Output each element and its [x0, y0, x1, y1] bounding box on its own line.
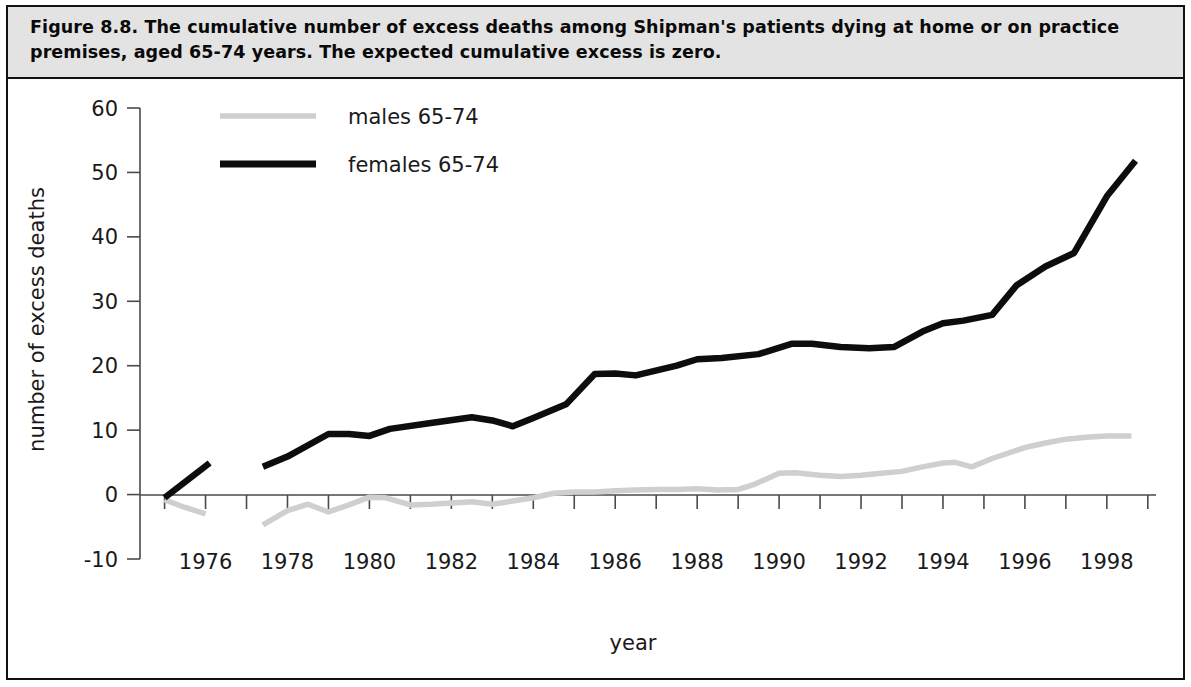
y-tick-label: -10 — [84, 548, 118, 572]
figure-container: Figure 8.8. The cumulative number of exc… — [0, 0, 1191, 687]
x-axis-title: year — [610, 631, 657, 655]
axis-titles: number of excess deathsyear — [25, 187, 657, 655]
legend-label-females: females 65-74 — [348, 153, 499, 177]
line-chart: -100102030405060 19761978198019821984198… — [8, 80, 1183, 678]
x-tick-label: 1986 — [588, 550, 641, 574]
x-tick-label: 1994 — [916, 550, 969, 574]
plot-area: -100102030405060 19761978198019821984198… — [8, 80, 1183, 678]
y-tick-label: 60 — [91, 97, 118, 121]
x-tick-label: 1992 — [834, 550, 887, 574]
figure-caption-text: Figure 8.8. The cumulative number of exc… — [30, 15, 1167, 66]
series-line-females — [165, 463, 210, 498]
x-tick-label: 1996 — [998, 550, 1051, 574]
x-tick-label: 1984 — [507, 550, 560, 574]
y-tick-label: 40 — [91, 225, 118, 249]
figure-caption-box: Figure 8.8. The cumulative number of exc… — [8, 7, 1183, 79]
y-tick-label: 0 — [105, 483, 118, 507]
x-tick-label: 1980 — [343, 550, 396, 574]
legend-label-males: males 65-74 — [348, 105, 479, 129]
series-line-females — [263, 161, 1136, 467]
x-tick-label: 1990 — [752, 550, 805, 574]
x-tick-label: 1982 — [425, 550, 478, 574]
series-layer — [165, 161, 1136, 525]
y-axis: -100102030405060 — [84, 97, 140, 572]
y-tick-label: 30 — [91, 290, 118, 314]
x-tick-label: 1976 — [179, 550, 232, 574]
y-axis-title: number of excess deaths — [25, 187, 49, 452]
y-tick-label: 20 — [91, 354, 118, 378]
series-line-males — [263, 436, 1132, 525]
y-tick-label: 10 — [91, 419, 118, 443]
chart-legend: males 65-74females 65-74 — [220, 105, 499, 177]
x-tick-label: 1988 — [670, 550, 723, 574]
series-line-males — [165, 500, 206, 514]
x-tick-label: 1978 — [261, 550, 314, 574]
x-tick-label: 1998 — [1080, 550, 1133, 574]
y-tick-label: 50 — [91, 161, 118, 185]
